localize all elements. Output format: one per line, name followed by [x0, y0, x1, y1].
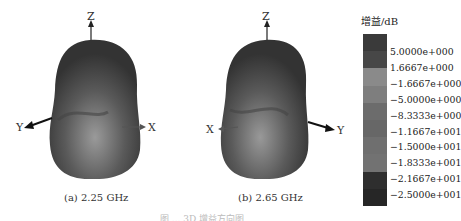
- colorbar-tick-label: 1.6667e+000: [390, 60, 461, 76]
- pattern-b-surface: [170, 0, 340, 200]
- colorbar-tick-label: −1.6667e+000: [390, 76, 461, 92]
- pattern-a-lobe: [50, 40, 141, 179]
- colorbar-tick-label: −8.3333e+000: [390, 108, 461, 124]
- colorbar: [363, 34, 387, 206]
- colorbar-tick-label: −1.1667e+001: [390, 124, 461, 140]
- colorbar-segment: [363, 120, 387, 137]
- colorbar-tick-label: −1.5000e+001: [390, 139, 461, 155]
- colorbar-tick-label: −2.1667e+001: [390, 171, 461, 187]
- colorbar-tick-label: −5.0000e+000: [390, 92, 461, 108]
- y-axis-label-a: Y: [16, 121, 23, 134]
- pattern-a-surface: [0, 0, 170, 200]
- colorbar-segment: [363, 51, 387, 68]
- radiation-pattern-a: Z Y X (a) 2.25 GHz: [0, 0, 170, 200]
- colorbar-segment: [363, 103, 387, 120]
- z-axis-label-b: Z: [262, 10, 270, 23]
- colorbar-tick-label: 5.0000e+000: [390, 44, 461, 60]
- colorbar-title: 增益/dB: [361, 13, 398, 28]
- y-axis-label-b: Y: [337, 124, 344, 137]
- y-axis-arrow-a: [30, 118, 52, 126]
- x-axis-label-a: X: [148, 121, 156, 134]
- z-axis-label-a: Z: [87, 10, 95, 23]
- subcaption-b: (b) 2.65 GHz: [238, 192, 303, 203]
- colorbar-segment: [363, 68, 387, 85]
- colorbar-segment: [363, 172, 387, 189]
- colorbar-segment: [363, 86, 387, 103]
- colorbar-labels: 5.0000e+0001.6667e+000−1.6667e+000−5.000…: [390, 44, 461, 203]
- x-axis-label-b: X: [206, 123, 214, 136]
- colorbar-segment: [363, 154, 387, 171]
- colorbar-tick-label: −1.8333e+001: [390, 155, 461, 171]
- radiation-pattern-b: Z Y X (b) 2.65 GHz: [170, 0, 340, 200]
- colorbar-segment: [363, 34, 387, 51]
- colorbar-segment: [363, 137, 387, 154]
- colorbar-segment: [363, 189, 387, 206]
- figure-caption: 图 ... 3D 增益方向图: [160, 212, 244, 221]
- y-axis-arrow-b: [308, 122, 328, 128]
- subcaption-a: (a) 2.25 GHz: [64, 192, 128, 203]
- colorbar-tick-label: −2.5000e+001: [390, 187, 461, 203]
